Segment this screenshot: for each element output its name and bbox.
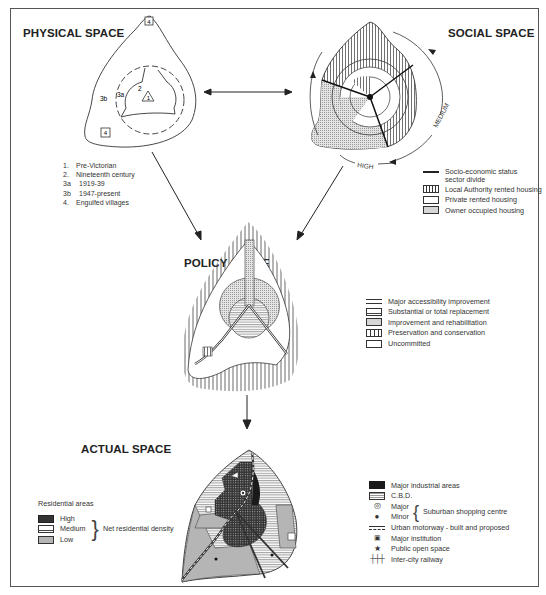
brace-icon: { [413, 503, 419, 521]
horizontal-hatch-swatch [38, 525, 54, 533]
policy-space-legend: Major accessibility improvement Substant… [366, 296, 490, 349]
legend-item: Private rented housing [423, 195, 542, 206]
road-icon [366, 299, 382, 304]
zone-3a-label: 3a [117, 91, 125, 98]
legend-label: Inter-city railway [391, 556, 443, 563]
legend-item: Major accessibility improvement [366, 296, 490, 307]
legend-label: Nineteenth century [76, 171, 135, 178]
legend-label: sector divide [445, 176, 485, 183]
double-arrow [204, 89, 292, 95]
railway-icon: ┼┼┼ [369, 555, 385, 563]
legend-label: 1919-39 [79, 180, 105, 187]
legend-label: Preservation and conservation [388, 329, 485, 336]
legend-label: Substantial or total replacement [388, 308, 489, 315]
physical-space-legend: 1.Pre-Victorian 2.Nineteenth century 3a1… [63, 161, 135, 207]
legend-label: Local Authority rented housing [445, 186, 542, 193]
legend-item: Owner occupied housing [423, 205, 542, 216]
legend-label: Major accessibility improvement [388, 298, 490, 305]
legend-item: ★Public open space [369, 544, 509, 555]
policy-space-map [182, 222, 299, 391]
legend-item: sector divide [423, 176, 542, 184]
legend-label: Major institution [391, 535, 441, 542]
actual-space-map [182, 450, 297, 582]
legend-item: 1.Pre-Victorian [63, 161, 135, 170]
legend-label: Owner occupied housing [445, 207, 524, 214]
legend-label: Major industrial areas [391, 482, 460, 489]
legend-key: 3b [63, 190, 79, 197]
legend-item: ◎Major [369, 501, 409, 512]
stipple-swatch [366, 318, 382, 326]
legend-item: Local Authority rented housing [423, 184, 542, 195]
arc-label-high: HIGH [357, 161, 374, 170]
legend-key: 4. [63, 199, 76, 206]
legend-item: 2.Nineteenth century [63, 170, 135, 179]
legend-label: Low [60, 536, 73, 543]
grey-swatch [38, 536, 54, 544]
motorway-icon [369, 526, 385, 530]
legend-item: High [38, 513, 86, 524]
actual-space-legend: Major industrial areas C.B.D. ◎Major ●Mi… [369, 480, 509, 565]
legend-label: Medium [60, 525, 86, 532]
institution-icon: ▣ [369, 534, 385, 542]
vertical-hatch-swatch [423, 185, 439, 193]
legend-item: Medium [38, 524, 86, 535]
legend-label: C.B.D. [391, 492, 412, 499]
legend-item: Low [38, 534, 86, 545]
legend-label: Uncommitted [388, 340, 430, 347]
arc-label-medium: MEDIUM [432, 102, 451, 129]
sector-divide-swatch [423, 171, 439, 173]
legend-item: Uncommitted [366, 338, 490, 349]
legend-key: 1. [63, 162, 76, 169]
legend-label: Major [391, 503, 409, 510]
residential-legend: Residential areas High Medium Low } Net … [38, 500, 174, 545]
star-icon: ★ [369, 545, 385, 553]
legend-label: Pre-Victorian [76, 162, 116, 169]
legend-heading: Residential areas [38, 500, 174, 507]
legend-label: Engulfed villages [76, 199, 129, 206]
blank-swatch [366, 340, 382, 348]
legend-label: Urban motorway - built and proposed [391, 524, 509, 531]
legend-key: 3a [63, 180, 79, 187]
social-space-map [310, 22, 443, 165]
legend-item: Substantial or total replacement [366, 307, 490, 318]
blank-swatch [423, 196, 439, 204]
legend-label: 1947-present [79, 190, 120, 197]
social-space-legend: Socio-economic status sector divide Loca… [423, 168, 542, 216]
horizontal-hatch-swatch [366, 308, 382, 316]
legend-item: Urban motorway - built and proposed [369, 522, 509, 533]
dot-icon: ● [369, 513, 385, 521]
vertical-hatch-swatch [366, 329, 382, 337]
brace-label: Net residential density [103, 525, 174, 532]
legend-label: High [60, 515, 75, 522]
legend-item: Major industrial areas [369, 480, 509, 491]
legend-item: C.B.D. [369, 491, 509, 502]
legend-label: Minor [391, 513, 409, 520]
legend-item: 4.Engulfed villages [63, 198, 135, 207]
legend-label: Improvement and rehabilitation [388, 319, 487, 326]
legend-item: 3a1919-39 [63, 179, 135, 188]
ring-icon: ◎ [369, 502, 385, 510]
legend-item: 3b1947-present [63, 189, 135, 198]
legend-label: Public open space [391, 545, 450, 552]
legend-item: Preservation and conservation [366, 328, 490, 339]
legend-label: Private rented housing [445, 196, 517, 203]
zone-2-label: 2 [138, 85, 142, 92]
brace-icon: } [92, 518, 99, 540]
legend-item: ┼┼┼Inter-city railway [369, 554, 509, 565]
brace-label: Suburban shopping centre [423, 508, 507, 515]
stipple-swatch [423, 206, 439, 214]
legend-item: ▣Major institution [369, 533, 509, 544]
legend-item: ●Minor [369, 512, 409, 523]
cbd-swatch [369, 492, 385, 500]
zone-3b-label: 3b [100, 95, 108, 102]
black-swatch [369, 481, 385, 489]
legend-key: 2. [63, 171, 76, 178]
physical-space-map [85, 16, 196, 147]
legend-item: Improvement and rehabilitation [366, 317, 490, 328]
dark-grid-swatch [38, 515, 54, 523]
